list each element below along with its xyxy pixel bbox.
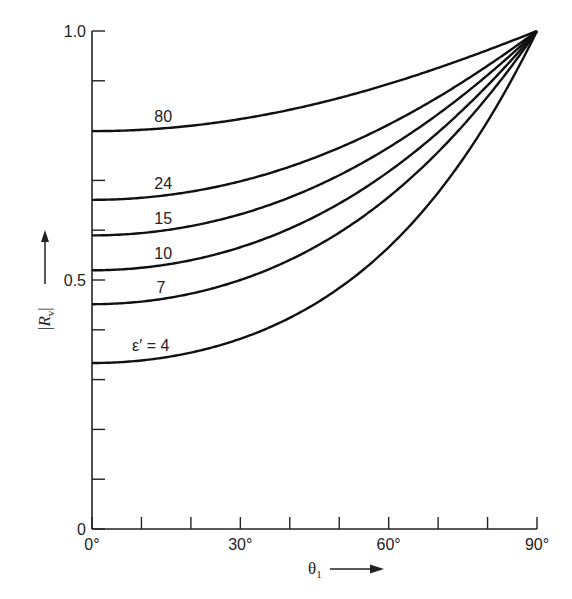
y-title-symbol: R: [35, 316, 54, 328]
y-tick-label: 0.5: [64, 272, 86, 289]
curve-label-24: 24: [154, 175, 172, 192]
curve-eps-7: [92, 31, 537, 304]
x-tick-label: 0°: [84, 536, 99, 553]
y-title-arrow-icon: [41, 230, 49, 242]
x-tick-label: 30°: [228, 536, 252, 553]
x-tick-label: 60°: [377, 536, 401, 553]
curve-eps-10: [92, 31, 537, 270]
curve-label-80: 80: [154, 108, 172, 125]
curve-label-10: 10: [154, 245, 172, 262]
curve-label-4: ε′ = 4: [132, 337, 169, 354]
curve-label-15: 15: [154, 210, 172, 227]
curves: [92, 31, 537, 363]
x-tick-label: 90°: [525, 536, 549, 553]
reflection-coefficient-chart: 00.51.00°30°60°90° 802415107ε′ = 4 |Rv| …: [0, 0, 572, 599]
y-tick-label: 1.0: [64, 23, 86, 40]
y-axis-title: |Rv|: [35, 230, 56, 330]
curve-label-7: 7: [157, 279, 166, 296]
y-title-bar-right: |: [35, 307, 54, 310]
svg-text:θ1: θ1: [308, 559, 322, 580]
axes: 00.51.00°30°60°90°: [64, 23, 549, 553]
x-title-symbol: θ: [308, 559, 316, 578]
x-title-sub: 1: [316, 568, 322, 580]
curve-eps-15: [92, 31, 537, 235]
x-axis-title: θ1: [308, 559, 384, 580]
svg-text:|Rv|: |Rv|: [35, 307, 56, 330]
x-title-arrow-icon: [370, 565, 384, 574]
